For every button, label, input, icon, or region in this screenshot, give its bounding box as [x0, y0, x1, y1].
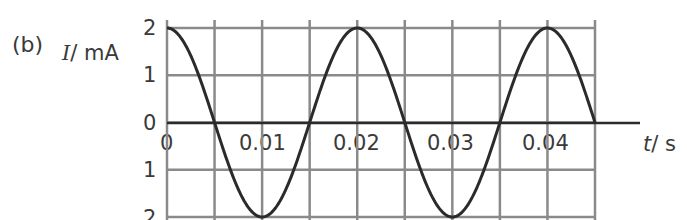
chart-plot-area: [0, 0, 687, 220]
grid-lines: [167, 20, 595, 220]
